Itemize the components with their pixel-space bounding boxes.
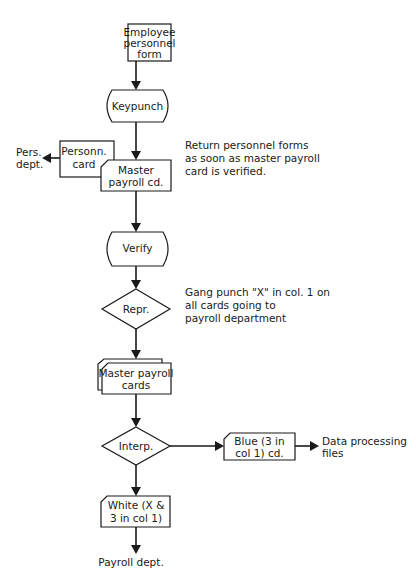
edge-blue-card-to-data-processing: [295, 441, 319, 451]
node-master-payroll-cards: Master payroll cards: [98, 359, 173, 394]
edge-verify-to-repr: [131, 266, 141, 289]
note-gang-punch: Gang punch "X" in col. 1 on all cards go…: [185, 286, 330, 324]
node-label-line: Interp.: [119, 440, 154, 452]
edge-white-card-to-payroll-dept: [131, 527, 141, 554]
node-repr-decision: Repr.: [102, 289, 170, 329]
node-label-line: White (X &: [108, 499, 165, 511]
node-keypunch: Keypunch: [107, 90, 168, 122]
edge-interp-to-blue-card: [170, 441, 224, 451]
node-label-line: Personn.: [61, 145, 106, 157]
note-line: card is verified.: [185, 165, 266, 177]
edge-personnel-card-to-pers-dept: [42, 153, 60, 163]
terminal-payroll-dept: Payroll dept.: [98, 556, 163, 568]
node-white-card: White (X & 3 in col 1): [101, 496, 170, 527]
note-line: payroll department: [185, 312, 286, 324]
node-label-line: cards: [122, 379, 150, 391]
node-label-line: Keypunch: [112, 100, 163, 112]
node-label-line: payroll cd.: [109, 176, 164, 188]
node-label-line: Master payroll: [99, 367, 174, 379]
node-label-line: Master: [118, 164, 155, 176]
node-label-line: card: [72, 158, 95, 170]
edge-interp-to-white-card: [131, 465, 141, 496]
node-verify: Verify: [107, 232, 168, 266]
terminal-label-line: Payroll dept.: [98, 556, 163, 568]
note-return-personnel-forms: Return personnel forms as soon as master…: [185, 139, 320, 177]
note-line: as soon as master payroll: [185, 152, 320, 164]
terminal-data-processing-files: Data processing files: [322, 435, 407, 459]
node-label-line: Repr.: [123, 303, 150, 315]
node-label-line: Blue (3 in: [234, 435, 284, 447]
edge-repr-to-master-cards: [131, 328, 141, 359]
terminal-label-line: Data processing: [322, 435, 407, 447]
node-master-payroll-cd: Master payroll cd.: [101, 160, 171, 191]
terminal-pers-dept: Pers. dept.: [16, 146, 43, 170]
note-line: all cards going to: [185, 299, 276, 311]
node-label-line: col 1) cd.: [235, 447, 283, 459]
edge-master-card-to-verify: [131, 191, 141, 232]
node-label-line: 3 in col 1): [110, 512, 162, 524]
edge-keypunch-to-master-card: [131, 122, 141, 160]
edge-form-to-keypunch: [131, 61, 141, 90]
terminal-label-line: dept.: [16, 158, 43, 170]
node-label-line: form: [137, 48, 161, 60]
node-employee-personnel-form: Employee personnel form: [123, 24, 175, 61]
edge-master-cards-to-interp: [131, 394, 141, 427]
payroll-flowchart: Employee personnel form Keypunch Personn…: [0, 0, 416, 583]
note-line: Gang punch "X" in col. 1 on: [185, 286, 330, 298]
node-interp-decision: Interp.: [102, 427, 170, 465]
node-label-line: Verify: [123, 242, 153, 254]
terminal-label-line: Pers.: [16, 146, 42, 158]
note-line: Return personnel forms: [185, 139, 309, 151]
node-blue-card: Blue (3 in col 1) cd.: [224, 433, 295, 460]
terminal-label-line: files: [322, 447, 343, 459]
